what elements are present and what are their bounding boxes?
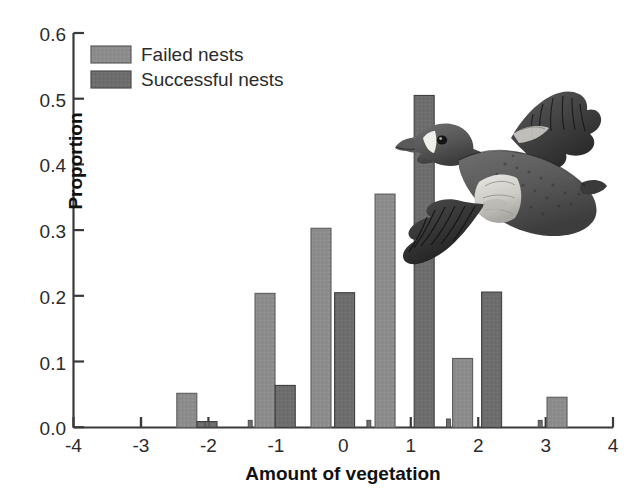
chart-figure: 0.6 0.5 0.4 0.3 0.2 0.1 0.0 -4 -3 -2 -1 bbox=[0, 0, 641, 499]
bar-failed bbox=[177, 393, 197, 427]
bar-failed bbox=[547, 397, 567, 427]
bar-failed bbox=[255, 293, 275, 427]
x-tick-label: -1 bbox=[267, 435, 284, 456]
flying-duck-illustration bbox=[393, 86, 609, 272]
y-tick-label: 0.5 bbox=[40, 90, 66, 111]
legend-swatch-failed-nests bbox=[91, 46, 131, 63]
x-axis-tick-labels: -4 -3 -2 -1 0 1 2 3 4 bbox=[65, 435, 619, 456]
x-tick-label: -2 bbox=[200, 435, 217, 456]
chart-legend: Failed nests Successful nests bbox=[91, 44, 284, 90]
bar-failed bbox=[311, 228, 331, 427]
x-tick-label: 3 bbox=[540, 435, 551, 456]
bar-successful bbox=[275, 385, 295, 427]
bar-successful-tiny bbox=[248, 420, 252, 427]
bar-successful-tiny bbox=[367, 420, 371, 427]
bar-successful-tiny bbox=[205, 422, 209, 428]
x-tick-label: -3 bbox=[133, 435, 150, 456]
legend-swatch-successful-nests bbox=[91, 71, 131, 88]
y-axis-tick-labels: 0.6 0.5 0.4 0.3 0.2 0.1 0.0 bbox=[40, 24, 67, 439]
bar-successful-tiny bbox=[538, 420, 542, 427]
bar-successful bbox=[482, 292, 502, 427]
x-tick-label: -4 bbox=[65, 435, 82, 456]
y-tick-label: 0.3 bbox=[40, 221, 66, 242]
legend-label-successful-nests: Successful nests bbox=[141, 69, 284, 90]
bar-successful-tiny bbox=[446, 419, 450, 428]
bar-failed bbox=[453, 358, 473, 427]
x-axis-title: Amount of vegetation bbox=[73, 463, 613, 485]
x-tick-label: 2 bbox=[473, 435, 484, 456]
x-tick-label: 0 bbox=[338, 435, 349, 456]
y-tick-label: 0.2 bbox=[40, 287, 66, 308]
y-axis-title: Proportion bbox=[65, 81, 87, 241]
x-tick-label: 4 bbox=[608, 435, 619, 456]
y-tick-label: 0.4 bbox=[40, 155, 67, 176]
y-tick-label: 0.0 bbox=[40, 418, 66, 439]
legend-label-failed-nests: Failed nests bbox=[141, 44, 243, 65]
y-tick-label: 0.1 bbox=[40, 353, 66, 374]
bar-successful bbox=[335, 293, 355, 428]
y-tick-label: 0.6 bbox=[40, 24, 66, 45]
x-tick-label: 1 bbox=[406, 435, 417, 456]
